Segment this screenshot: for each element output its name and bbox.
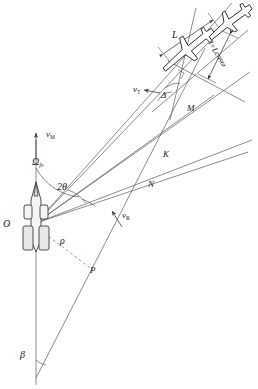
engagement-geometry-diagram: vM vT vR Ωf0 2θ Δ β O M K N P L l=Lcosω … — [0, 0, 258, 389]
target-aircraft-icon-secondary — [202, 0, 257, 45]
label-point-N: N — [148, 180, 154, 189]
right-angle-tick — [178, 70, 184, 79]
dimension-ext-L-left — [158, 47, 170, 62]
line-of-sight-lower — [36, 140, 252, 223]
label-point-O: O — [3, 219, 10, 229]
label-missile-velocity: vM — [46, 130, 55, 140]
label-angle-two-theta: 2θ — [57, 182, 67, 192]
label-target-velocity: vT — [133, 85, 140, 95]
launch-platform-icon — [23, 182, 49, 252]
label-range-rho: ρ — [60, 236, 65, 246]
label-relative-velocity: vR — [122, 211, 130, 221]
target-cross-line — [168, 61, 245, 102]
label-angle-omega-f0: Ωf0 — [32, 157, 43, 168]
label-angle-delta: Δ — [161, 91, 166, 100]
label-dimension-L: L — [172, 30, 178, 40]
label-point-P: P — [90, 266, 96, 275]
label-point-M: M — [187, 104, 195, 113]
label-point-K: K — [163, 150, 169, 159]
dimension-ext-L-right — [208, 13, 219, 28]
line-of-sight-mid — [36, 72, 250, 223]
label-angle-beta: β — [20, 350, 25, 360]
